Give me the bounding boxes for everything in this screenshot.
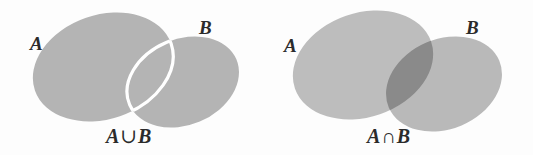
caption-intersection: A∩B — [367, 126, 410, 146]
union-operator-icon: ∪ — [119, 125, 138, 147]
panel-union: A B A∪B — [0, 0, 266, 155]
label-set-a: A — [30, 34, 43, 53]
caption-union: A∪B — [106, 126, 151, 146]
label-set-b: B — [466, 18, 479, 37]
caption-intersection-set-b: B — [397, 125, 410, 147]
caption-intersection-set-a: A — [367, 125, 380, 147]
intersection-operator-icon: ∩ — [380, 125, 396, 147]
label-set-a: A — [284, 36, 297, 55]
caption-union-set-b: B — [138, 125, 151, 147]
caption-union-set-a: A — [106, 125, 119, 147]
label-set-b: B — [199, 18, 212, 37]
panel-intersection: A B A∩B — [267, 0, 533, 155]
venn-diagram-figure: A B A∪B A B A∩B — [0, 0, 533, 155]
